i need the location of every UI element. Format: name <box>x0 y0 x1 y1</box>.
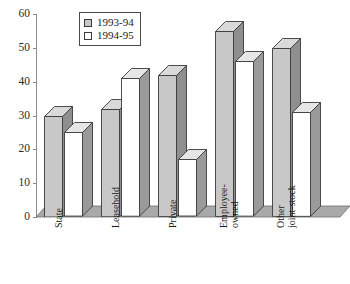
x-axis-label-line: owned <box>230 184 241 228</box>
y-axis-tick-label: 30 <box>8 110 30 121</box>
y-axis-tick-label: 20 <box>8 143 30 154</box>
bar-chart: 0102030405060 StateLeaseholdPrivateEmplo… <box>0 0 350 284</box>
x-axis-label-line: Private <box>168 200 179 228</box>
y-axis-tick-label: 60 <box>8 8 30 19</box>
y-axis-tick-label: 40 <box>8 76 30 87</box>
x-axis-label-line: State <box>54 208 65 228</box>
bar <box>64 122 93 217</box>
legend-item: 1994-95 <box>84 29 134 42</box>
legend-swatch-1993-94 <box>84 19 92 27</box>
legend-swatch-1994-95 <box>84 32 92 40</box>
x-axis-label: Private <box>168 200 179 228</box>
x-axis-label-line: Employee- <box>219 184 230 228</box>
x-axis-label-line: joint-stock <box>287 185 298 228</box>
bar <box>121 68 150 217</box>
y-axis-tick <box>33 183 37 184</box>
y-axis-tick <box>33 14 37 15</box>
bar <box>178 149 207 217</box>
legend-label-1993-94: 1993-94 <box>97 17 134 28</box>
y-axis-tick-label: 0 <box>8 211 30 222</box>
x-axis-label: Otherjoint-stock <box>276 185 297 228</box>
legend-item: 1993-94 <box>84 16 134 29</box>
y-axis-tick <box>33 116 37 117</box>
x-axis-label: Leasehold <box>111 187 122 228</box>
x-axis-label-line: Leasehold <box>111 187 122 228</box>
y-axis-tick <box>33 82 37 83</box>
bar-3d-shape <box>178 149 207 217</box>
x-axis-label-line: Other <box>276 185 287 228</box>
legend-label-1994-95: 1994-95 <box>97 30 134 41</box>
legend: 1993-94 1994-95 <box>79 12 141 46</box>
y-axis-tick <box>33 48 37 49</box>
y-axis-tick-label: 10 <box>8 177 30 188</box>
x-axis-label: State <box>54 208 65 228</box>
y-axis-tick <box>33 149 37 150</box>
y-axis-tick-label: 50 <box>8 42 30 53</box>
bar-3d-shape <box>64 122 93 217</box>
x-axis-label: Employee-owned <box>219 184 240 228</box>
bar-3d-shape <box>121 68 150 217</box>
